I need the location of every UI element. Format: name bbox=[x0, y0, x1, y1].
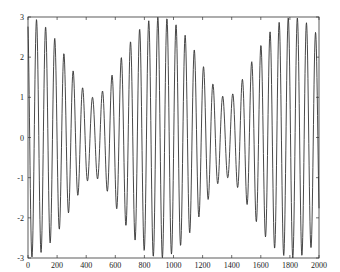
x-tick-label: 1400 bbox=[224, 261, 240, 270]
x-tick-label: 1600 bbox=[253, 261, 269, 270]
x-tick-label: 0 bbox=[26, 261, 30, 270]
x-tick-label: 1000 bbox=[166, 261, 182, 270]
x-tick-label: 600 bbox=[109, 261, 121, 270]
x-tick-label: 1200 bbox=[195, 261, 211, 270]
y-tick-label: 0 bbox=[20, 134, 24, 143]
x-tick-label: 400 bbox=[80, 261, 92, 270]
x-tick-label: 200 bbox=[51, 261, 63, 270]
signal-line bbox=[28, 17, 319, 258]
y-tick-label: -2 bbox=[17, 214, 24, 223]
x-tick-label: 800 bbox=[138, 261, 150, 270]
y-axis-tick-labels: -3-2-10123 bbox=[17, 13, 24, 263]
y-tick-label: 2 bbox=[20, 53, 24, 62]
plot-area bbox=[28, 17, 319, 258]
line-chart: 0200400600800100012001400160018002000 -3… bbox=[0, 0, 340, 272]
y-tick-label: 3 bbox=[20, 13, 24, 22]
x-tick-label: 1800 bbox=[282, 261, 298, 270]
x-tick-label: 2000 bbox=[311, 261, 327, 270]
x-axis-tick-labels: 0200400600800100012001400160018002000 bbox=[26, 261, 327, 270]
y-tick-label: -3 bbox=[17, 254, 24, 263]
y-tick-label: 1 bbox=[20, 93, 24, 102]
y-tick-label: -1 bbox=[17, 174, 24, 183]
waveform-group bbox=[28, 17, 319, 258]
